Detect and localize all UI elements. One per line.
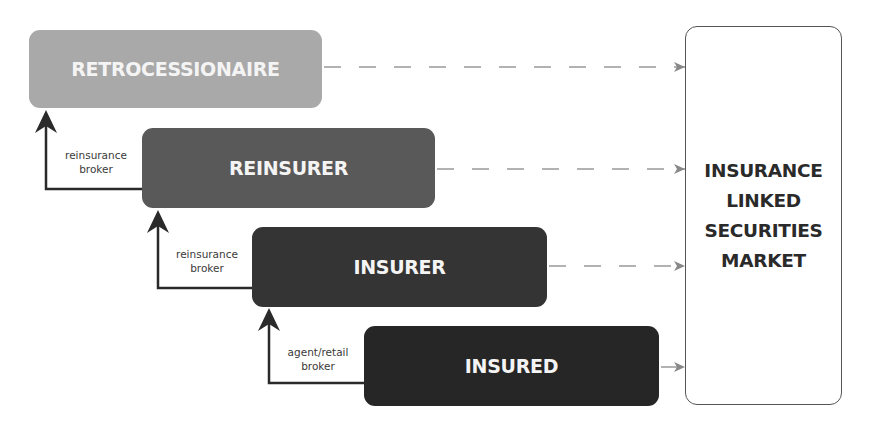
insured-box: INSURED <box>364 326 659 406</box>
broker-label-reinsurance-2: reinsurance broker <box>163 247 251 275</box>
insurer-box: INSURER <box>252 227 547 307</box>
broker-label-agent-retail: agent/retail broker <box>274 345 362 373</box>
reinsurer-box: REINSURER <box>142 128 435 208</box>
retrocessionaire-box: RETROCESSIONAIRE <box>29 30 322 108</box>
ils-market-label: INSURANCE LINKED SECURITIES MARKET <box>704 156 822 276</box>
broker-label-reinsurance-1: reinsurance broker <box>52 148 140 176</box>
retrocessionaire-label: RETROCESSIONAIRE <box>71 58 280 80</box>
insured-label: INSURED <box>465 355 558 377</box>
reinsurer-label: REINSURER <box>229 157 348 179</box>
ils-market-box: INSURANCE LINKED SECURITIES MARKET <box>685 26 842 405</box>
insurer-label: INSURER <box>353 256 445 278</box>
